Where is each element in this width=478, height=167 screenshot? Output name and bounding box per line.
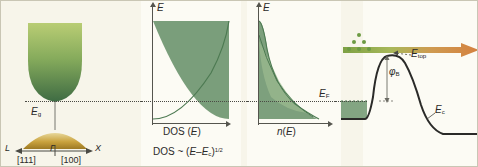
k-axis-left-arrow bbox=[15, 148, 22, 154]
direction-111-label: [111] bbox=[17, 156, 36, 165]
electron-dot bbox=[357, 33, 361, 37]
carrier-energy-axis-label: E bbox=[263, 3, 270, 13]
figure-canvas: Eg L Γ X [111] [100] E DOS (E) DOS ~ (E–… bbox=[0, 0, 478, 167]
dos-x-axis bbox=[152, 123, 226, 124]
conduction-band bbox=[28, 23, 82, 102]
etop-label: Etop bbox=[411, 49, 426, 59]
carrier-axis-caption: n(E) bbox=[277, 127, 296, 137]
panel-dos: E DOS (E) DOS ~ (E–Ec)1/2 bbox=[141, 1, 247, 167]
dos-shaded-region bbox=[153, 21, 229, 119]
dos-graphic bbox=[141, 1, 247, 167]
electron-dot bbox=[352, 40, 356, 44]
panel-carrier-concentration: E n(E) bbox=[247, 1, 343, 167]
phi-b-arrow-bottom bbox=[385, 98, 390, 103]
direction-100-label: [100] bbox=[61, 156, 81, 165]
dos-energy-axis-arrow bbox=[150, 2, 156, 7]
band-structure-graphic bbox=[1, 1, 141, 167]
panel1-guide-line bbox=[25, 101, 141, 102]
electron-dot bbox=[367, 47, 371, 51]
point-gamma-label: Γ bbox=[50, 144, 55, 153]
panel-schottky-barrier: EF Etop φB Ec bbox=[343, 1, 478, 167]
dos-formula: DOS ~ (E–Ec)1/2 bbox=[153, 147, 223, 157]
ec-leader-line bbox=[427, 113, 435, 119]
band-gap-label: Eg bbox=[31, 107, 41, 117]
panel3-guide-line bbox=[247, 101, 343, 102]
carrier-x-axis bbox=[258, 123, 328, 124]
ec-label: Ec bbox=[435, 105, 445, 115]
fermi-level-label: EF bbox=[319, 89, 329, 99]
metal-fill bbox=[341, 101, 367, 119]
panel2-guide-line bbox=[141, 101, 247, 102]
carrier-graphic bbox=[247, 1, 343, 167]
k-axis-right-arrow bbox=[86, 148, 93, 154]
electron-dot bbox=[357, 47, 361, 51]
dos-x-axis-arrow bbox=[226, 121, 231, 127]
dos-axis-caption: DOS (E) bbox=[163, 127, 201, 137]
conduction-band-edge-curve bbox=[341, 55, 478, 134]
electron-dot bbox=[347, 47, 351, 51]
point-L-label: L bbox=[5, 144, 10, 153]
carrier-energy-axis bbox=[258, 7, 259, 125]
point-X-label: X bbox=[95, 144, 101, 153]
carrier-x-axis-arrow bbox=[328, 121, 333, 127]
carrier-energy-axis-arrow bbox=[256, 2, 262, 7]
panel-band-structure: Eg L Γ X [111] [100] bbox=[1, 1, 141, 167]
phi-b-label: φB bbox=[389, 67, 400, 77]
schottky-graphic bbox=[343, 1, 478, 167]
dos-energy-axis bbox=[152, 7, 153, 125]
dos-energy-axis-label: E bbox=[157, 3, 164, 13]
panel4-fermi-line bbox=[335, 101, 367, 102]
electron-dot bbox=[362, 40, 366, 44]
